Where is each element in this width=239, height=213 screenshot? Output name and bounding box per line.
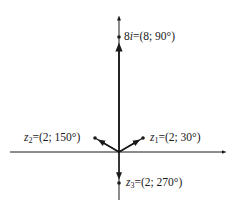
- point-z2: [93, 136, 97, 140]
- point-z3: [117, 181, 121, 185]
- label-8i: 8i=(8; 90°): [124, 31, 175, 43]
- point-z1: [141, 136, 145, 140]
- label-z3: z3=(2; 270°): [126, 177, 182, 190]
- point-8i: [117, 35, 121, 39]
- label-z2: z2=(2; 150°): [24, 132, 80, 145]
- complex-plane: [0, 0, 239, 213]
- label-z1: z1=(2; 30°): [150, 132, 201, 145]
